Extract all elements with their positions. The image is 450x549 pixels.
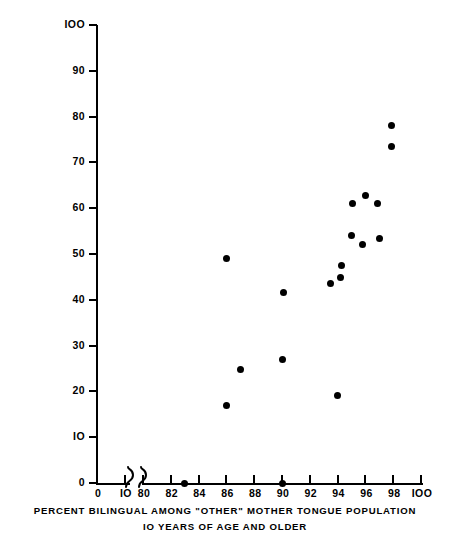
- data-point: [362, 192, 369, 199]
- y-axis-tick-label-40: 40: [55, 293, 85, 305]
- y-axis-tick-30: [89, 345, 97, 347]
- y-axis-title: CHILDREN OF BILINGUAL "OTHER" MOTHER TON…: [0, 0, 52, 500]
- y-axis-tick-label-60: 60: [55, 201, 85, 213]
- x-axis-tick-label-100: IOO: [407, 487, 437, 499]
- x-axis-tick-label-94: 94: [324, 487, 354, 499]
- axis-break-icon: [122, 466, 150, 488]
- x-axis-tick-98: [392, 475, 394, 484]
- y-axis-tick-60: [89, 207, 97, 209]
- x-axis-tick-82: [170, 475, 172, 484]
- y-axis-tick-100: [89, 24, 97, 26]
- x-axis-tick-label-98: 98: [379, 487, 409, 499]
- y-axis-tick-90: [89, 70, 97, 72]
- data-point: [327, 280, 334, 287]
- data-point: [388, 143, 395, 150]
- x-axis-title-line-2: IO YEARS OF AGE AND OLDER: [0, 521, 450, 532]
- data-point: [280, 289, 287, 296]
- x-axis-tick-label-96: 96: [351, 487, 381, 499]
- data-point: [237, 366, 244, 373]
- data-point: [388, 122, 395, 129]
- x-axis-tick-92: [309, 475, 311, 484]
- x-axis-tick-88: [253, 475, 255, 484]
- x-axis-tick-80: [142, 475, 144, 484]
- y-axis-tick-label-30: 30: [55, 339, 85, 351]
- data-point: [334, 392, 341, 399]
- y-axis-tick-10: [89, 436, 97, 438]
- x-axis-tick-label-80: 80: [129, 487, 159, 499]
- data-point: [349, 200, 356, 207]
- y-axis-tick-label-90: 90: [55, 64, 85, 76]
- x-axis-title-line-1: PERCENT BILINGUAL AMONG "OTHER" MOTHER T…: [0, 505, 450, 516]
- x-axis-tick-0: [96, 475, 98, 484]
- x-axis-tick-96: [364, 475, 366, 484]
- y-axis-tick-label-0: 0: [55, 476, 85, 488]
- data-point: [279, 356, 286, 363]
- x-axis-tick-label-92: 92: [296, 487, 326, 499]
- x-axis-tick-label-82: 82: [157, 487, 187, 499]
- x-axis-tick-100: [420, 475, 422, 484]
- scatter-plot-figure: CHILDREN OF BILINGUAL "OTHER" MOTHER TON…: [0, 0, 450, 549]
- data-point: [181, 480, 188, 487]
- data-point: [359, 241, 366, 248]
- x-axis-tick-86: [225, 475, 227, 484]
- y-axis-tick-50: [89, 253, 97, 255]
- data-point: [376, 235, 383, 242]
- y-axis-tick-label-20: 20: [55, 384, 85, 396]
- y-axis-tick-label-100: IOO: [55, 18, 85, 30]
- data-point: [348, 232, 355, 239]
- data-point: [223, 255, 230, 262]
- y-axis-tick-70: [89, 161, 97, 163]
- y-axis-tick-label-50: 50: [55, 247, 85, 259]
- x-axis-tick-84: [198, 475, 200, 484]
- y-axis-tick-80: [89, 116, 97, 118]
- data-point: [223, 402, 230, 409]
- y-axis-tick-label-10: IO: [55, 430, 85, 442]
- data-point: [279, 480, 286, 487]
- data-point: [338, 262, 345, 269]
- y-axis-tick-label-70: 70: [55, 155, 85, 167]
- x-axis-tick-94: [337, 475, 339, 484]
- x-axis-tick-label-84: 84: [185, 487, 215, 499]
- y-axis-tick-label-80: 80: [55, 110, 85, 122]
- y-axis-tick-20: [89, 390, 97, 392]
- y-axis-tick-40: [89, 299, 97, 301]
- data-point: [337, 274, 344, 281]
- data-point: [374, 200, 381, 207]
- x-axis-tick-10: [124, 475, 126, 484]
- x-axis-tick-label-86: 86: [212, 487, 242, 499]
- x-axis-tick-label-0: 0: [83, 487, 113, 499]
- x-axis-tick-label-90: 90: [268, 487, 298, 499]
- x-axis-tick-label-88: 88: [240, 487, 270, 499]
